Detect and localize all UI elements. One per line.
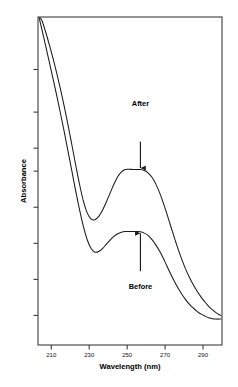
x-axis-tick-label: 230: [84, 352, 95, 358]
x-axis-tick-label: 250: [122, 352, 133, 358]
x-axis-tick-label: 210: [46, 352, 57, 358]
annotation-label-after: After: [132, 99, 149, 108]
spectrum-curve-after: [39, 17, 222, 316]
x-axis-tick-label: 290: [198, 352, 209, 358]
spectrum-curve-before: [39, 17, 222, 319]
spectrum-plot: 210230250270290AfterBeforeWavelength (nm…: [0, 0, 238, 387]
absorbance-spectrum-figure: 210230250270290AfterBeforeWavelength (nm…: [0, 0, 238, 387]
plot-frame: [38, 17, 222, 345]
y-axis-title: Absorbance: [19, 159, 28, 203]
x-axis-title: Wavelength (nm): [100, 362, 161, 371]
x-axis-tick-label: 270: [160, 352, 171, 358]
annotation-label-before: Before: [129, 282, 152, 291]
